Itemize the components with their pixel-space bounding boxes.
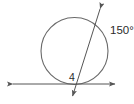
arc-measure-label: 150° <box>110 24 134 36</box>
geometry-canvas: 150° 4 <box>0 0 134 104</box>
geometry-figure: 150° 4 <box>0 0 134 104</box>
angle-number-label: 4 <box>69 71 75 83</box>
